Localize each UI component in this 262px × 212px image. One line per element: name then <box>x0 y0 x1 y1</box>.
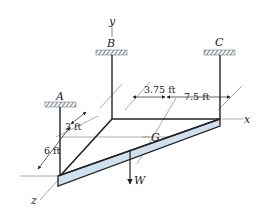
dim-3-ft: 3 ft <box>65 121 82 132</box>
support-b-label: B <box>106 37 115 50</box>
support-b <box>96 50 127 55</box>
centroid-label: G <box>151 131 160 144</box>
construction-lines <box>20 82 243 200</box>
support-c-label: C <box>215 36 224 49</box>
cables <box>60 55 220 176</box>
y-axis-label: y <box>108 15 116 28</box>
dim-3-75-ft: 3.75 ft <box>144 84 176 95</box>
z-axis-label: z <box>30 194 37 207</box>
diagram-canvas: y B C A x z G W 3.75 ft 7.5 ft 3 ft 6 ft <box>0 0 262 212</box>
support-c <box>204 50 235 55</box>
weight-label: W <box>134 174 147 187</box>
x-axis-label: x <box>244 113 251 126</box>
support-a-label: A <box>55 90 64 103</box>
dim-6-ft: 6 ft <box>44 145 61 156</box>
dim-7-5-ft: 7.5 ft <box>184 91 210 102</box>
